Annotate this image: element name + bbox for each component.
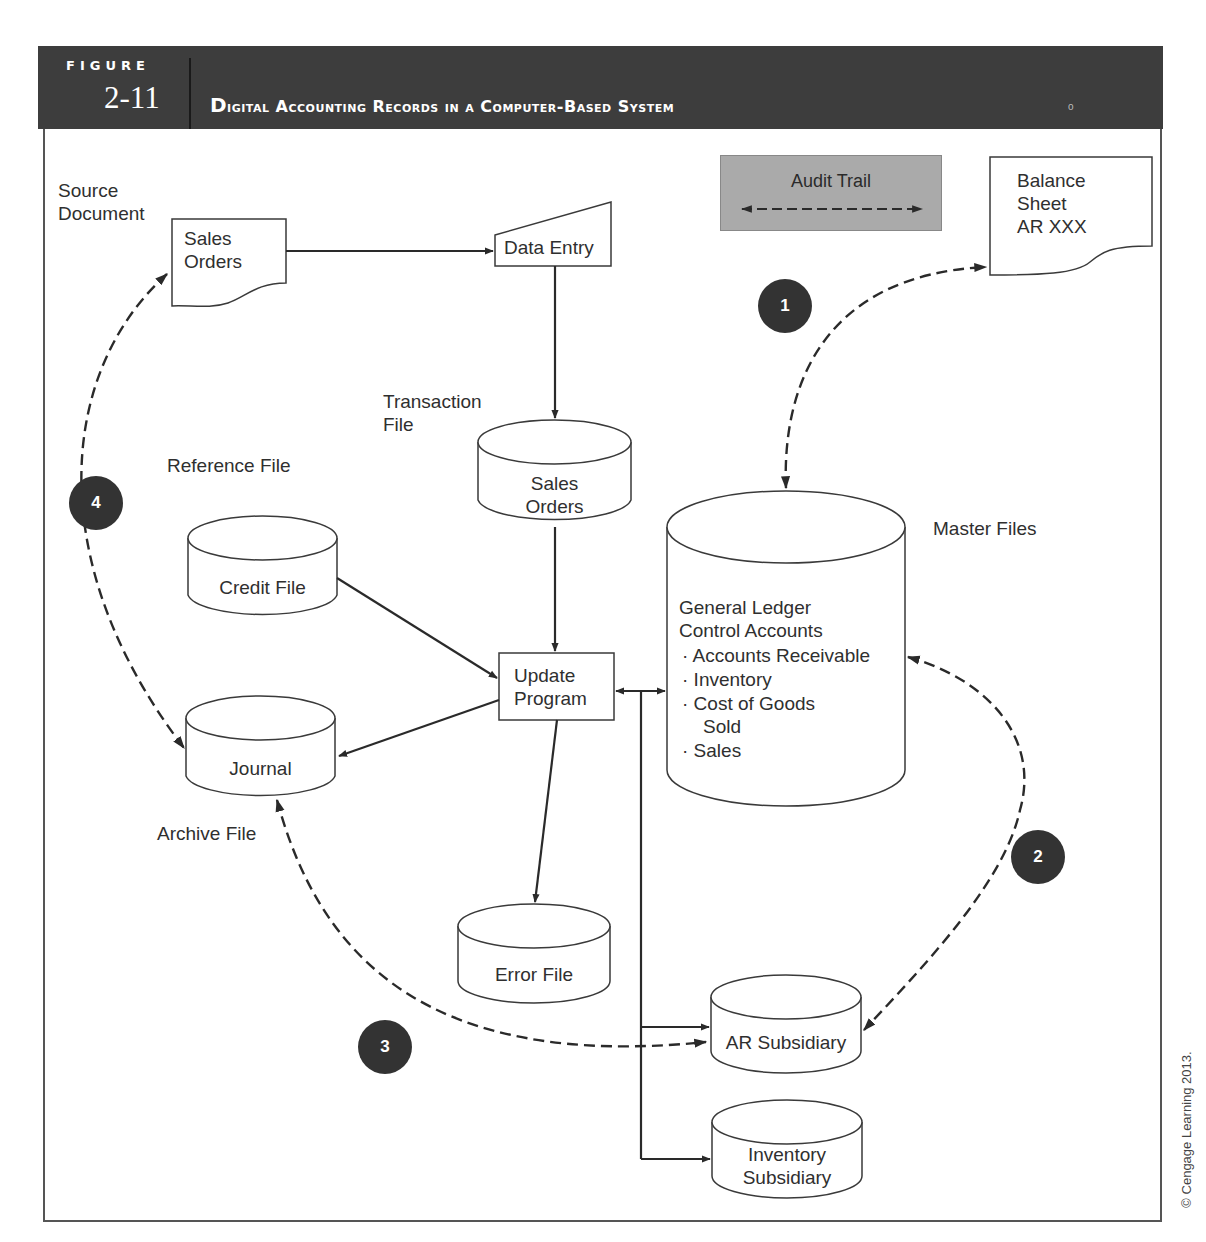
archive-file-label: Archive File [157, 822, 256, 845]
master-files-label: Master Files [933, 517, 1036, 540]
bullet: · [682, 693, 694, 714]
data-entry-text: Data Entry [504, 236, 594, 259]
legend-title: Audit Trail [721, 171, 941, 192]
error-file-cylinder [458, 904, 610, 1003]
audit-trail-1 [786, 267, 986, 488]
general-ledger-heading: General Ledger Control Accounts [679, 596, 823, 642]
credit-file-text: Credit File [188, 576, 337, 599]
general-ledger-accounts-list: · Accounts Receivable · Inventory · Cost… [682, 644, 870, 762]
bullet: · [682, 740, 694, 761]
audit-trail-badge-3: 3 [358, 1020, 412, 1074]
audit-trail-badge-2: 2 [1011, 830, 1065, 884]
copyright-notice: © Cengage Learning 2013. [1179, 1020, 1194, 1240]
bullet: · [682, 645, 693, 666]
sales-orders-file-text: Sales Orders [478, 472, 631, 518]
ar-subsidiary-cylinder [711, 975, 861, 1073]
credit-file-cylinder [188, 516, 337, 614]
flow-update-to-error [535, 720, 557, 902]
inventory-subsidiary-text: Inventory Subsidiary [712, 1143, 862, 1189]
flow-update-to-journal [339, 700, 499, 756]
audit-trail-badge-4: 4 [69, 476, 123, 530]
balance-sheet-text: Balance Sheet AR XXX [1017, 169, 1087, 238]
audit-trail-badge-1: 1 [758, 279, 812, 333]
account-name: Accounts Receivable [693, 645, 870, 666]
account-name: Inventory [694, 669, 772, 690]
error-file-text: Error File [458, 963, 610, 986]
account-item-sales: · Sales [682, 739, 870, 762]
audit-trail-legend: Audit Trail [720, 155, 942, 231]
reference-file-label: Reference File [167, 454, 291, 477]
account-item-cost-of-goods-sold: · Cost of Goods Sold [682, 692, 870, 738]
ar-subsidiary-text: AR Subsidiary [711, 1031, 861, 1054]
sales-orders-document-text: Sales Orders [184, 227, 242, 273]
journal-cylinder [186, 696, 335, 795]
bullet: · [682, 669, 694, 690]
account-name: Cost of Goods Sold [682, 693, 815, 737]
flow-credit-to-update [337, 578, 497, 678]
transaction-file-label: Transaction File [383, 390, 482, 436]
account-item-inventory: · Inventory [682, 668, 870, 691]
update-program-text: Update Program [514, 664, 587, 710]
source-document-label: Source Document [58, 179, 145, 225]
journal-text: Journal [186, 757, 335, 780]
account-name: Sales [694, 740, 742, 761]
account-item-accounts-receivable: · Accounts Receivable [682, 644, 870, 667]
